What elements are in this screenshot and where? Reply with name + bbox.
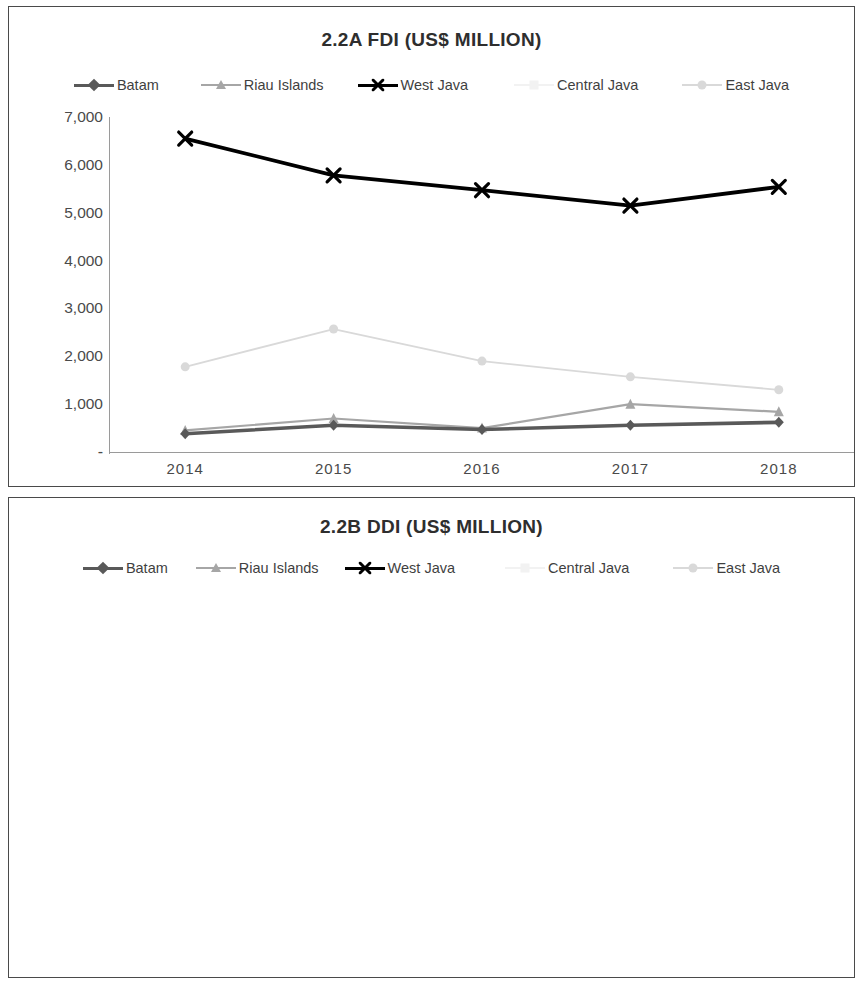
- legend-swatch-x-icon: [358, 78, 398, 92]
- legend-item-west_java[interactable]: West Java: [345, 560, 455, 576]
- chart-a-y-axis-labels: -1,0002,0003,0004,0005,0006,0007,000: [33, 117, 103, 452]
- y-tick-label: 6,000: [64, 156, 103, 174]
- legend-item-east_java[interactable]: East Java: [682, 77, 789, 93]
- chart-panel-b: 2.2B DDI (US$ MILLION) BatamRiau Islands…: [8, 497, 855, 978]
- legend-swatch-triangle-icon: [201, 78, 241, 92]
- legend-marker-x-icon: [358, 562, 371, 575]
- y-axis-line: [109, 117, 110, 454]
- legend-item-west_java[interactable]: West Java: [358, 77, 468, 93]
- legend-swatch-diamond-icon: [74, 78, 114, 92]
- chart-a-plot-area: [111, 117, 853, 452]
- chart-b-legend: BatamRiau IslandsWest JavaCentral JavaEa…: [9, 560, 854, 576]
- legend-label: Batam: [126, 560, 168, 576]
- legend-swatch-square-icon: [505, 561, 545, 575]
- legend-item-riau[interactable]: Riau Islands: [201, 77, 324, 93]
- series-east_java: [181, 325, 784, 395]
- legend-swatch-diamond-icon: [83, 561, 123, 575]
- figure-page: 2.2A FDI (US$ MILLION) BatamRiau Islands…: [0, 0, 863, 984]
- legend-marker-triangle-icon: [211, 563, 221, 572]
- legend-swatch-triangle-icon: [196, 561, 236, 575]
- y-tick-label: 5,000: [64, 204, 103, 222]
- legend-label: West Java: [388, 560, 455, 576]
- x-axis-line: [109, 452, 855, 453]
- legend-marker-circle-icon: [698, 81, 707, 90]
- legend-item-central_java[interactable]: Central Java: [514, 77, 638, 93]
- legend-swatch-circle-icon: [682, 78, 722, 92]
- series-batam: [180, 417, 784, 439]
- legend-marker-x-icon: [371, 79, 384, 92]
- legend-label: Central Java: [557, 77, 638, 93]
- legend-item-east_java[interactable]: East Java: [673, 560, 780, 576]
- y-tick-label: 1,000: [64, 395, 103, 413]
- y-tick-label: 2,000: [64, 347, 103, 365]
- chart-a-series-layer: [111, 117, 853, 452]
- x-tick-label: 2015: [315, 460, 352, 477]
- legend-marker-square-icon: [521, 564, 530, 573]
- legend-label: East Java: [716, 560, 780, 576]
- x-tick-label: 2014: [167, 460, 204, 477]
- chart-panel-a: 2.2A FDI (US$ MILLION) BatamRiau Islands…: [8, 6, 855, 487]
- legend-label: Batam: [117, 77, 159, 93]
- chart-b-title: 2.2B DDI (US$ MILLION): [9, 516, 854, 538]
- legend-label: West Java: [401, 77, 468, 93]
- legend-swatch-x-icon: [345, 561, 385, 575]
- chart-a-legend: BatamRiau IslandsWest JavaCentral JavaEa…: [9, 77, 854, 93]
- chart-a-inner: 2.2A FDI (US$ MILLION) BatamRiau Islands…: [9, 7, 854, 486]
- legend-label: Central Java: [548, 560, 629, 576]
- legend-swatch-circle-icon: [673, 561, 713, 575]
- legend-item-riau[interactable]: Riau Islands: [196, 560, 319, 576]
- legend-marker-diamond-icon: [88, 79, 101, 92]
- y-tick-label: -: [98, 443, 103, 461]
- legend-marker-triangle-icon: [216, 80, 226, 89]
- x-tick-label: 2017: [612, 460, 649, 477]
- legend-label: East Java: [725, 77, 789, 93]
- y-tick-label: 4,000: [64, 252, 103, 270]
- legend-marker-diamond-icon: [97, 562, 110, 575]
- legend-label: Riau Islands: [239, 560, 319, 576]
- y-tick-label: 3,000: [64, 299, 103, 317]
- legend-item-batam[interactable]: Batam: [74, 77, 159, 93]
- legend-marker-circle-icon: [689, 564, 698, 573]
- series-west_java: [179, 132, 786, 212]
- legend-item-batam[interactable]: Batam: [83, 560, 168, 576]
- legend-item-central_java[interactable]: Central Java: [505, 560, 629, 576]
- chart-a-title: 2.2A FDI (US$ MILLION): [9, 29, 854, 51]
- legend-label: Riau Islands: [244, 77, 324, 93]
- legend-swatch-square-icon: [514, 78, 554, 92]
- x-tick-label: 2016: [463, 460, 500, 477]
- x-tick-label: 2018: [760, 460, 797, 477]
- legend-marker-square-icon: [530, 81, 539, 90]
- y-tick-label: 7,000: [64, 108, 103, 126]
- chart-b-inner: 2.2B DDI (US$ MILLION) BatamRiau Islands…: [9, 498, 854, 977]
